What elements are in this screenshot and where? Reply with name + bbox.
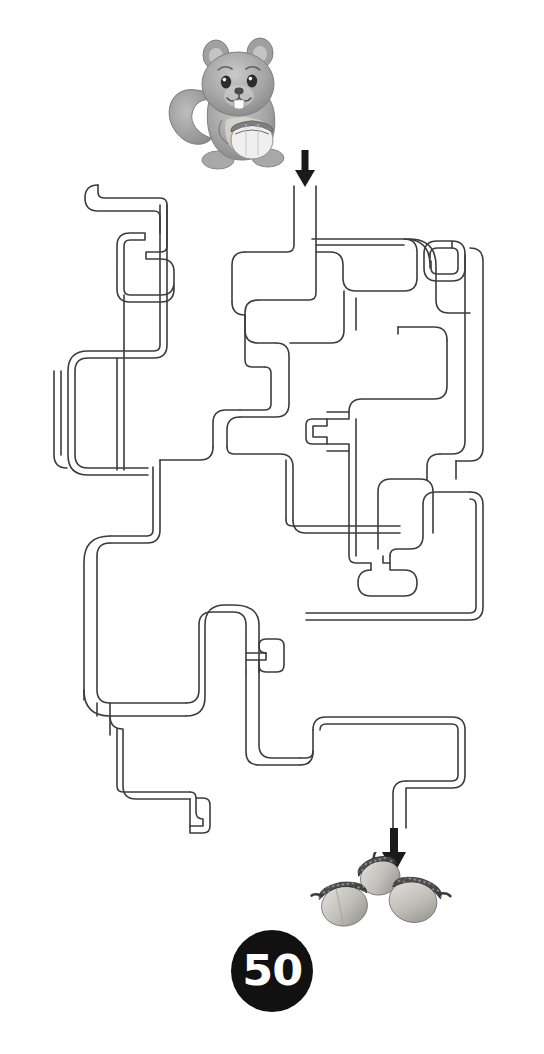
page-number-badge: 50	[231, 930, 313, 1012]
acorn-illustrations	[310, 852, 466, 936]
acorns-svg	[310, 852, 466, 936]
maze-worksheet: 50 Squirrel Acorn Maze	[0, 0, 544, 1054]
acorn-front-left	[310, 879, 371, 930]
exit-arrow-shaft	[390, 828, 398, 854]
page-number-text: 50	[242, 950, 302, 992]
